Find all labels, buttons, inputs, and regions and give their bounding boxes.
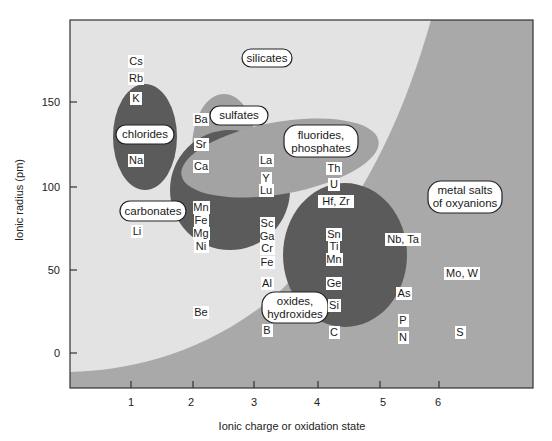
element-Mo-W: Mo, W [446,267,478,279]
x-tick-3: 3 [251,396,257,408]
svg-text:carbonates: carbonates [125,205,182,217]
element-Sc: Sc [261,217,274,229]
element-Cs: Cs [129,55,143,67]
element-S: S [456,326,463,338]
element-Hf-Zr: Hf, Zr [322,195,350,207]
category-carbonates: carbonates [120,201,186,221]
element-Be: Be [194,306,207,318]
y-tick-50: 50 [48,264,60,276]
element-Fe: Fe [195,214,208,226]
svg-text:fluorides,: fluorides, [298,129,345,141]
element-Sr: Sr [196,138,207,150]
x-tick-5: 5 [380,396,386,408]
svg-text:of oxyanions: of oxyanions [433,197,498,209]
category-oxides-hydroxides: oxides, hydroxides [262,292,328,323]
svg-text:hydroxides: hydroxides [267,308,323,320]
element-Sn: Sn [327,228,340,240]
category-sulfates: sulfates [210,106,268,125]
element-Rb: Rb [129,72,143,84]
element-Lu: Lu [260,184,272,196]
element-Mg: Mg [193,227,208,239]
element-Ti: Ti [330,240,339,252]
y-axis-label: Ionic radius (pm) [13,159,25,241]
element-Si: Si [329,299,339,311]
y-tick-100: 100 [42,181,60,193]
element-La: La [260,154,273,166]
element-Ca: Ca [194,160,209,172]
element-C: C [330,326,338,338]
element-B: B [263,324,270,336]
svg-text:metal salts: metal salts [438,184,493,196]
element-Cr: Cr [261,242,273,254]
element-Ba: Ba [194,113,208,125]
x-tick-2: 2 [188,396,194,408]
element-Ga: Ga [260,230,276,242]
element-P: P [399,314,406,326]
element-Fe3: Fe [261,256,274,268]
y-tick-0: 0 [54,347,60,359]
category-chlorides: chlorides [116,125,174,144]
x-tick-4: 4 [314,396,320,408]
element-Ge: Ge [327,277,342,289]
element-N: N [399,331,407,343]
element-Ni: Ni [196,240,206,252]
y-tick-150: 150 [42,96,60,108]
svg-text:sulfates: sulfates [219,109,259,121]
element-U: U [330,178,338,190]
chart: 150 100 50 0 1 2 3 4 5 6 Ionic charge or… [0,0,552,441]
element-Mn4: Mn [326,253,341,265]
category-silicates: silicates [242,49,292,67]
element-Th: Th [328,162,341,174]
element-Mn: Mn [193,201,208,213]
category-fluorides-phosphates: fluorides, phosphates [284,125,358,157]
x-tick-6: 6 [435,396,441,408]
element-Nb-Ta: Nb, Ta [387,233,419,245]
x-axis-label: Ionic charge or oxidation state [219,420,366,432]
svg-text:oxides,: oxides, [277,295,313,307]
x-tick-1: 1 [128,396,134,408]
element-As: As [398,287,411,299]
element-K: K [132,92,140,104]
element-Al: Al [262,277,272,289]
svg-text:chlorides: chlorides [122,128,168,140]
element-Na: Na [129,154,144,166]
category-metal-salts: metal salts of oxyanions [428,181,502,213]
svg-text:silicates: silicates [247,52,288,64]
element-Li: Li [133,225,142,237]
svg-text:phosphates: phosphates [291,142,351,154]
element-Y: Y [262,172,270,184]
